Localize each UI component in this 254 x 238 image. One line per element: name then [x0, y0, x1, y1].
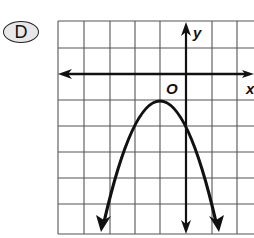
x-axis-label: x	[245, 80, 254, 97]
grid	[58, 21, 254, 234]
y-axis-label: y	[192, 24, 202, 41]
coordinate-graph: y x O	[0, 0, 254, 238]
origin-label: O	[166, 80, 178, 97]
x-axis	[58, 69, 254, 79]
